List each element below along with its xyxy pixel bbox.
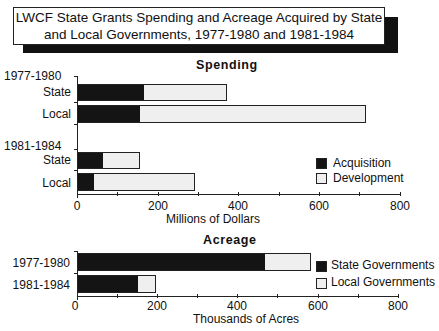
chart-title-box: LWCF State Grants Spending and Acreage A… (13, 7, 385, 45)
x-tick (398, 294, 399, 298)
x-tick-label: 200 (137, 299, 177, 313)
legend-swatch-acquisition (316, 158, 327, 169)
acreage-title: Acreage (203, 233, 257, 247)
legend-label-acquisition: Acquisition (333, 156, 391, 170)
x-tick (358, 294, 359, 298)
segment-state-governments (78, 276, 138, 292)
legend-label-state-governments: State Governments (331, 258, 434, 272)
x-tick-label: 200 (138, 199, 178, 213)
bar-label-local-1981: Local (0, 176, 71, 190)
bar-state-1981-1984 (77, 152, 140, 169)
y-tick (74, 76, 78, 77)
x-tick (77, 194, 78, 198)
x-tick (318, 294, 319, 298)
x-tick-label: 800 (380, 199, 420, 213)
spending-title: Spending (196, 58, 258, 72)
legend-label-local-governments: Local Governments (331, 275, 435, 289)
x-tick (117, 192, 118, 196)
segment-acquisition (78, 153, 103, 168)
x-tick (400, 192, 401, 196)
x-tick (197, 294, 198, 298)
legend-swatch-local-governments (316, 278, 327, 289)
bar-local-1981-1984 (77, 173, 195, 191)
x-tick (237, 294, 238, 298)
chart-title-line2: and Local Governments, 1977-1980 and 198… (14, 26, 384, 43)
bar-label-local-1977: Local (0, 107, 71, 121)
bar-state-1977-1980 (77, 84, 227, 101)
segment-development (94, 174, 194, 190)
spending-x-axis (77, 194, 401, 195)
segment-development (103, 153, 139, 168)
legend-label-development: Development (333, 171, 404, 185)
y-tick (74, 149, 78, 150)
x-tick-label: 0 (57, 199, 97, 213)
x-tick (319, 192, 320, 196)
legend-swatch-state-governments (316, 261, 327, 272)
segment-local-governments (138, 276, 155, 292)
y-tick (74, 273, 78, 274)
x-tick (359, 192, 360, 196)
x-tick-label: 400 (218, 199, 258, 213)
bar-label-1981-1984: 1981-1984 (0, 278, 70, 292)
y-tick (74, 102, 78, 103)
bar-label-1977-1980: 1977-1980 (0, 256, 70, 270)
bar-1981-1984 (77, 275, 156, 293)
x-tick (158, 192, 159, 196)
spending-x-axis-title: Millions of Dollars (166, 212, 260, 226)
chart-title-line1: LWCF State Grants Spending and Acreage A… (14, 9, 384, 26)
x-tick-label: 600 (298, 299, 338, 313)
legend-swatch-development (316, 173, 327, 184)
y-tick (74, 170, 78, 171)
y-tick (74, 124, 78, 125)
x-tick (277, 294, 278, 298)
x-tick (238, 192, 239, 196)
segment-development (144, 85, 226, 100)
x-tick-label: 0 (55, 299, 95, 313)
x-tick-label: 800 (378, 299, 418, 313)
x-tick-label: 600 (299, 199, 339, 213)
x-tick (157, 294, 158, 298)
x-tick (198, 192, 199, 196)
bar-1977-1980 (77, 253, 311, 271)
segment-development (140, 106, 365, 122)
segment-acquisition (78, 85, 144, 100)
segment-state-governments (78, 254, 265, 270)
x-tick (117, 294, 118, 298)
bar-local-1977-1980 (77, 105, 366, 123)
acreage-x-axis (77, 296, 399, 297)
acreage-x-axis-title: Thousands of Acres (193, 312, 299, 326)
segment-acquisition (78, 106, 140, 122)
x-tick-label: 400 (217, 299, 257, 313)
group-label-1977-1980: 1977-1980 (0, 69, 74, 83)
segment-acquisition (78, 174, 94, 190)
group-label-1981-1984: 1981-1984 (0, 139, 74, 153)
bar-label-state-1981: State (0, 153, 71, 167)
bar-label-state-1977: State (0, 85, 71, 99)
x-tick (279, 192, 280, 196)
y-tick (74, 251, 78, 252)
segment-local-governments (265, 254, 310, 270)
